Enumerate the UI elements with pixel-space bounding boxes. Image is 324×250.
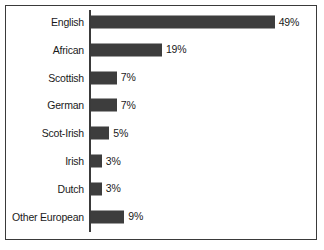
- category-label: Dutch: [6, 183, 84, 194]
- bar-value-label: 3%: [106, 156, 121, 167]
- bar-value-label: 7%: [121, 100, 136, 111]
- bar-value-label: 49%: [279, 17, 299, 28]
- bar-value-label: 3%: [106, 183, 121, 194]
- bar-chart-figure: English49%African19%Scottish7%German7%Sc…: [5, 5, 317, 240]
- bar-fill: [91, 155, 102, 168]
- category-label: Scottish: [6, 72, 84, 83]
- bar-track: 7%: [91, 99, 313, 112]
- category-label: Other European: [6, 211, 84, 222]
- bar-track: 3%: [91, 155, 313, 168]
- category-label: English: [6, 17, 84, 28]
- bar-row: Irish3%: [6, 147, 316, 175]
- bar-fill: [91, 127, 110, 140]
- bar-fill: [91, 99, 117, 112]
- bar-fill: [91, 210, 125, 223]
- bar-track: 3%: [91, 182, 313, 195]
- category-label: German: [6, 100, 84, 111]
- bar-fill: [91, 43, 162, 56]
- bar-fill: [91, 71, 117, 84]
- bar-row: English49%: [6, 8, 316, 36]
- bar-track: 5%: [91, 127, 313, 140]
- bar-row: German7%: [6, 91, 316, 119]
- category-label: Scot-Irish: [6, 128, 84, 139]
- category-label: African: [6, 44, 84, 55]
- bar-row: Scot-Irish5%: [6, 119, 316, 147]
- plot-area: English49%African19%Scottish7%German7%Sc…: [6, 6, 316, 239]
- bar-track: 7%: [91, 71, 313, 84]
- bar-value-label: 9%: [128, 211, 143, 222]
- bar-value-label: 7%: [121, 72, 136, 83]
- bar-row: Other European9%: [6, 203, 316, 231]
- bar-fill: [91, 182, 102, 195]
- bar-track: 49%: [91, 16, 313, 29]
- bar-track: 9%: [91, 210, 313, 223]
- bar-value-label: 19%: [166, 44, 186, 55]
- bar-value-label: 5%: [113, 128, 128, 139]
- category-label: Irish: [6, 156, 84, 167]
- bar-row: Dutch3%: [6, 175, 316, 203]
- bar-row: African19%: [6, 36, 316, 64]
- bar-row: Scottish7%: [6, 64, 316, 92]
- bar-track: 19%: [91, 43, 313, 56]
- bar-fill: [91, 16, 275, 29]
